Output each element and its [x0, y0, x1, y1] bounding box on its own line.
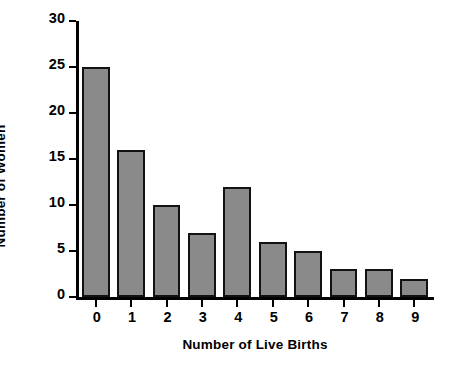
- bar-1: [117, 150, 145, 297]
- bar-3: [188, 233, 216, 297]
- y-axis-line: [76, 21, 79, 299]
- y-tick-0: 0: [69, 296, 76, 298]
- bar-7: [330, 269, 358, 297]
- x-tick-label-8: 8: [365, 309, 395, 325]
- y-tick-25: 25: [69, 66, 76, 68]
- x-tick-8: [378, 300, 380, 307]
- bar-4: [223, 187, 251, 297]
- x-axis-title: Number of Live Births: [78, 337, 432, 352]
- y-tick-label: 15: [49, 148, 65, 164]
- x-tick-2: [166, 300, 168, 307]
- x-tick-label-0: 0: [82, 309, 112, 325]
- y-tick-30: 30: [69, 20, 76, 22]
- x-tick-3: [201, 300, 203, 307]
- bar-2: [153, 205, 181, 297]
- y-tick-5: 5: [69, 250, 76, 252]
- y-tick-label: 25: [49, 56, 65, 72]
- y-tick-label: 30: [49, 10, 65, 26]
- y-tick-20: 20: [69, 112, 76, 114]
- bar-8: [365, 269, 393, 297]
- y-tick-10: 10: [69, 204, 76, 206]
- x-tick-label-1: 1: [117, 309, 147, 325]
- x-tick-5: [272, 300, 274, 307]
- x-tick-9: [413, 300, 415, 307]
- x-tick-label-3: 3: [188, 309, 218, 325]
- bar-0: [82, 67, 110, 297]
- y-tick-label: 10: [49, 194, 65, 210]
- x-tick-label-9: 9: [400, 309, 430, 325]
- bar-5: [259, 242, 287, 297]
- y-tick-15: 15: [69, 158, 76, 160]
- x-tick-label-5: 5: [259, 309, 289, 325]
- x-tick-label-7: 7: [330, 309, 360, 325]
- x-tick-label-4: 4: [223, 309, 253, 325]
- plot-area: 051015202530 0123456789: [78, 21, 432, 297]
- bar-chart-figure: Number of Women Number of Live Births 05…: [0, 0, 460, 372]
- x-tick-label-2: 2: [153, 309, 183, 325]
- y-tick-label: 5: [57, 240, 65, 256]
- x-tick-1: [130, 300, 132, 307]
- y-tick-label: 20: [49, 102, 65, 118]
- bar-9: [400, 279, 428, 297]
- x-tick-4: [236, 300, 238, 307]
- x-tick-7: [343, 300, 345, 307]
- x-tick-0: [95, 300, 97, 307]
- x-tick-6: [307, 300, 309, 307]
- bar-6: [294, 251, 322, 297]
- x-tick-label-6: 6: [294, 309, 324, 325]
- y-tick-label: 0: [57, 286, 65, 302]
